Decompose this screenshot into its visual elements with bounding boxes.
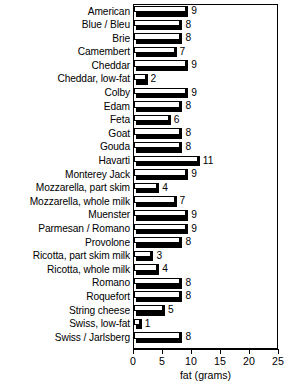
category-label: Swiss / Jarlsberg xyxy=(0,331,130,345)
x-tick-label: 15 xyxy=(209,355,231,367)
bar-shadow xyxy=(136,53,177,57)
bar-value-label: 9 xyxy=(191,208,197,222)
bar xyxy=(134,332,183,344)
bar xyxy=(134,183,160,195)
category-label: Provolone xyxy=(0,236,130,250)
bar xyxy=(134,20,183,32)
bar-row: Colby9 xyxy=(0,87,287,101)
x-tick xyxy=(220,349,221,354)
bar xyxy=(134,237,183,249)
bar-row: Muenster9 xyxy=(0,209,287,223)
bar-shadow xyxy=(136,271,159,275)
bar-row: Parmesan / Romano9 xyxy=(0,223,287,237)
x-tick xyxy=(278,349,279,354)
bar-rows-container: American9Blue / Bleu8Brie8Camembert7Ched… xyxy=(0,5,287,345)
bar-row: Brie8 xyxy=(0,32,287,46)
bar-value-label: 8 xyxy=(185,31,191,45)
bar-shadow xyxy=(136,339,182,343)
bar-shadow xyxy=(136,162,200,166)
bar-value-label: 4 xyxy=(162,262,168,276)
bar-value-label: 5 xyxy=(168,303,174,317)
bar-value-label: 6 xyxy=(174,113,180,127)
bar-value-label: 9 xyxy=(191,222,197,236)
bar xyxy=(134,88,189,100)
bar-shadow xyxy=(136,135,182,139)
category-label: Colby xyxy=(0,86,130,100)
bar xyxy=(134,60,189,72)
bar-value-label: 3 xyxy=(156,249,162,263)
bar xyxy=(134,101,183,113)
bar-shadow xyxy=(136,298,182,302)
category-label: Mozzarella, part skim xyxy=(0,181,130,195)
bar xyxy=(134,210,189,222)
bar-row: Swiss / Jarlsberg8 xyxy=(0,331,287,345)
bar xyxy=(134,156,201,168)
bar-shadow xyxy=(136,284,182,288)
bar-value-label: 9 xyxy=(191,58,197,72)
bar-shadow xyxy=(136,176,188,180)
category-label: Edam xyxy=(0,100,130,114)
bar-value-label: 4 xyxy=(162,181,168,195)
bar-value-label: 8 xyxy=(185,99,191,113)
bar-value-label: 8 xyxy=(185,330,191,344)
bar-row: Monterey Jack9 xyxy=(0,168,287,182)
bar xyxy=(134,115,172,127)
bar-shadow xyxy=(136,257,153,261)
bar-value-label: 8 xyxy=(185,18,191,32)
bar-shadow xyxy=(136,108,182,112)
category-label: Brie xyxy=(0,32,130,46)
bar-value-label: 8 xyxy=(185,276,191,290)
bar xyxy=(134,169,189,181)
bar xyxy=(134,319,143,331)
bar-row: Camembert7 xyxy=(0,46,287,60)
x-tick-label: 20 xyxy=(238,355,260,367)
bar xyxy=(134,305,166,317)
bar-row: Blue / Bleu8 xyxy=(0,19,287,33)
x-tick xyxy=(249,349,250,354)
bar xyxy=(134,47,178,59)
bar-value-label: 9 xyxy=(191,167,197,181)
x-axis-label: fat (grams) xyxy=(133,369,278,382)
bar-shadow xyxy=(136,311,165,315)
category-label: Roquefort xyxy=(0,290,130,304)
bar-row: Romano8 xyxy=(0,277,287,291)
bar-row: Feta6 xyxy=(0,114,287,128)
bar-shadow xyxy=(136,325,142,329)
x-tick-label: 5 xyxy=(151,355,173,367)
bar-shadow xyxy=(136,148,182,152)
bar xyxy=(134,278,183,290)
bar-row: Roquefort8 xyxy=(0,290,287,304)
bar-value-label: 8 xyxy=(185,235,191,249)
bar xyxy=(134,74,149,86)
bar xyxy=(134,264,160,276)
bar xyxy=(134,33,183,45)
bar-row: American9 xyxy=(0,5,287,19)
category-label: Feta xyxy=(0,113,130,127)
bar-row: Cheddar, low-fat2 xyxy=(0,73,287,87)
bar-value-label: 9 xyxy=(191,4,197,18)
bar-row: Provolone8 xyxy=(0,236,287,250)
bar-row: Havarti11 xyxy=(0,155,287,169)
bar-shadow xyxy=(136,230,188,234)
bar-row: Goat8 xyxy=(0,127,287,141)
x-axis-line xyxy=(133,349,278,350)
bar-shadow xyxy=(136,26,182,30)
bar xyxy=(134,128,183,140)
category-label: Parmesan / Romano xyxy=(0,222,130,236)
bar-row: String cheese5 xyxy=(0,304,287,318)
category-label: Havarti xyxy=(0,154,130,168)
bar-value-label: 8 xyxy=(185,140,191,154)
category-label: Camembert xyxy=(0,45,130,59)
bar-shadow xyxy=(136,94,188,98)
bar-value-label: 7 xyxy=(180,45,186,59)
bar-row: Swiss, low-fat1 xyxy=(0,318,287,332)
bar-shadow xyxy=(136,67,188,71)
bar-row: Ricotta, part skim milk3 xyxy=(0,250,287,264)
category-label: Mozzarella, whole milk xyxy=(0,195,130,209)
x-tick xyxy=(191,349,192,354)
bar-value-label: 8 xyxy=(185,289,191,303)
bar-value-label: 7 xyxy=(180,194,186,208)
category-label: Goat xyxy=(0,127,130,141)
bar-shadow xyxy=(136,243,182,247)
bar-shadow xyxy=(136,80,148,84)
